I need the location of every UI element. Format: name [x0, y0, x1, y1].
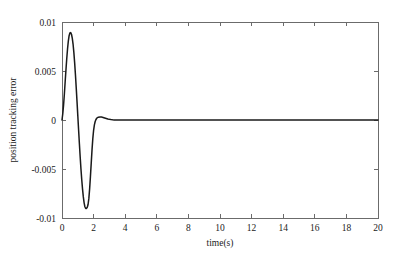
y-axis-title: position tracking error: [8, 77, 18, 163]
x-axis-title: time(s): [207, 238, 234, 249]
x-tick-label: 20: [373, 223, 383, 233]
chart-plot: 02468101214161820 -0.01-0.00500.0050.01 …: [0, 0, 398, 257]
x-axis-tick-labels: 02468101214161820: [60, 223, 383, 233]
y-tick-label: 0.005: [35, 67, 57, 77]
y-tick-label: 0: [51, 116, 56, 126]
y-axis-tick-labels: -0.01-0.00500.0050.01: [31, 18, 56, 224]
x-tick-label: 14: [278, 223, 288, 233]
x-tick-label: 6: [154, 223, 159, 233]
x-tick-label: 4: [123, 223, 128, 233]
y-tick-label: -0.01: [36, 214, 56, 224]
data-series-position-tracking-error: [62, 33, 378, 209]
x-tick-label: 16: [310, 223, 320, 233]
x-tick-label: 10: [215, 223, 225, 233]
y-tick-label: -0.005: [31, 165, 56, 175]
figure-container: 02468101214161820 -0.01-0.00500.0050.01 …: [0, 0, 398, 257]
x-tick-label: 18: [342, 223, 352, 233]
x-tick-label: 8: [186, 223, 191, 233]
x-tick-label: 0: [60, 223, 65, 233]
y-tick-label: 0.01: [39, 18, 56, 28]
x-tick-label: 12: [247, 223, 257, 233]
x-tick-label: 2: [91, 223, 96, 233]
